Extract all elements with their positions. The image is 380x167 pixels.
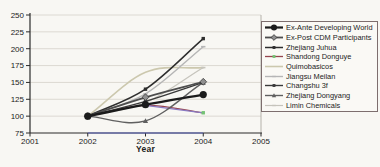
legend-marker-icon (264, 43, 284, 52)
legend-item-label: Zhejiang Dongyang (286, 91, 350, 100)
legend-item: Shandong Donguye (264, 52, 376, 61)
x-axis-title: Year (30, 144, 261, 154)
y-tick-label: 225 (11, 28, 25, 37)
y-tick-label: 125 (11, 95, 25, 104)
legend-item: Ex-Post CDM Participants (264, 33, 376, 42)
legend-marker-icon (264, 33, 284, 42)
legend-item: Jiangsu Meilan (264, 72, 376, 81)
y-tick-label: 175 (11, 61, 25, 70)
legend-item-label: Ex-Ante Developing World (286, 23, 373, 32)
legend-marker-icon (264, 62, 284, 71)
y-tick-label: 200 (11, 45, 25, 54)
legend-item: Zhejiang Juhua (264, 43, 376, 52)
legend-item-label: Limin Chemicals (286, 101, 340, 110)
y-tick-label: 100 (11, 112, 25, 121)
y-tick-label: 150 (11, 78, 25, 87)
legend-marker-icon (264, 72, 284, 81)
y-tick-label: 250 (11, 11, 25, 20)
legend-marker-icon (264, 101, 284, 110)
legend-item: Limin Chemicals (264, 101, 376, 110)
legend-item-label: Quimobasicos (286, 62, 333, 71)
hfc-index-line-chart: 7510012515017520022525020012002200320042… (0, 0, 380, 167)
axes: 7510012515017520022525020012002200320042… (11, 11, 271, 146)
legend-item-label: Shandong Donguye (286, 52, 351, 61)
legend-item: Ex-Ante Developing World (264, 23, 376, 32)
legend-marker-icon (264, 52, 284, 61)
legend-item-label: Zhejiang Juhua (286, 43, 337, 52)
legend-item: Zhejiang Dongyang (264, 91, 376, 100)
legend-marker-icon (264, 91, 284, 100)
legend: Ex-Ante Developing WorldEx-Post CDM Part… (261, 21, 378, 112)
legend-item-label: Jiangsu Meilan (286, 72, 335, 81)
legend-marker-icon (264, 23, 284, 32)
legend-marker-icon (264, 81, 284, 90)
legend-item: Quimobasicos (264, 62, 376, 71)
legend-item-label: Ex-Post CDM Participants (286, 33, 371, 42)
legend-item: Changshu 3f (264, 81, 376, 90)
legend-item-label: Changshu 3f (286, 81, 328, 90)
